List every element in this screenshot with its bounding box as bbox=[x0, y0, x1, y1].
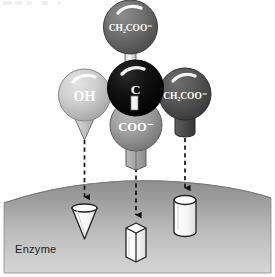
sphere-left-label: OH bbox=[74, 89, 96, 104]
sphere-right-label: CH₂COO⁻ bbox=[163, 91, 207, 101]
sphere-left-oh: OH bbox=[59, 69, 111, 121]
bond-bottom-stub bbox=[131, 96, 138, 110]
scan-artifact-top bbox=[3, 1, 61, 5]
sphere-right-ch2coo: CH₂COO⁻ bbox=[159, 68, 211, 120]
central-carbon-label: C bbox=[131, 82, 141, 97]
sphere-top-label: CH₂COO⁻ bbox=[109, 23, 153, 33]
figure-canvas: CH₂COO⁻ OH CH₂COO⁻ COO⁻ bbox=[0, 0, 275, 277]
sphere-bottom-label: COO⁻ bbox=[118, 120, 153, 134]
molecule-enzyme-diagram: CH₂COO⁻ OH CH₂COO⁻ COO⁻ bbox=[0, 0, 275, 277]
binding-site-cylinder bbox=[174, 196, 196, 237]
binding-site-hex-prism bbox=[126, 223, 146, 262]
enzyme-label: Enzyme bbox=[15, 243, 57, 255]
sphere-top-ch2coo: CH₂COO⁻ bbox=[104, 0, 158, 54]
